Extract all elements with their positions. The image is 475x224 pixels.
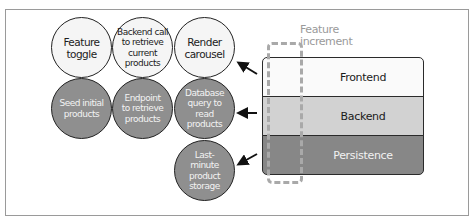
arrow-frontend-to-render-carousel — [239, 63, 257, 74]
arrow-persistence-to-storage — [239, 154, 257, 164]
arrows-layer — [0, 0, 475, 224]
